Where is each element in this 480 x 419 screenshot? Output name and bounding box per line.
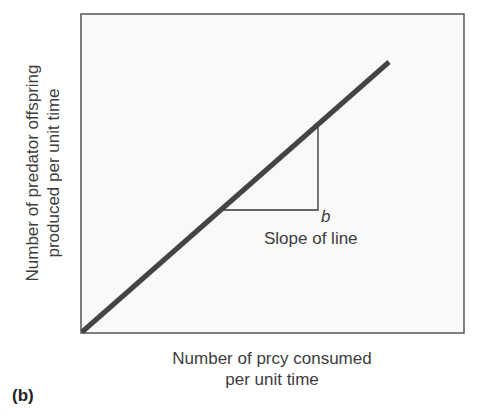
x-axis-label: Number of prcy consumed per unit time: [172, 348, 371, 390]
panel-label: (b): [12, 386, 34, 406]
x-axis-label-line1: Number of prcy consumed: [172, 348, 371, 369]
y-axis-label: Number of predator offspring produced pe…: [22, 64, 64, 281]
figure: Number of predator offspring produced pe…: [0, 0, 480, 419]
slope-annotation: Slope of line: [264, 229, 358, 249]
y-axis-label-line2: produced per unit time: [43, 64, 64, 281]
y-axis-label-line1: Number of predator offspring: [22, 64, 43, 281]
x-axis-label-line2: per unit time: [172, 369, 371, 390]
slope-symbol: b: [321, 207, 330, 227]
